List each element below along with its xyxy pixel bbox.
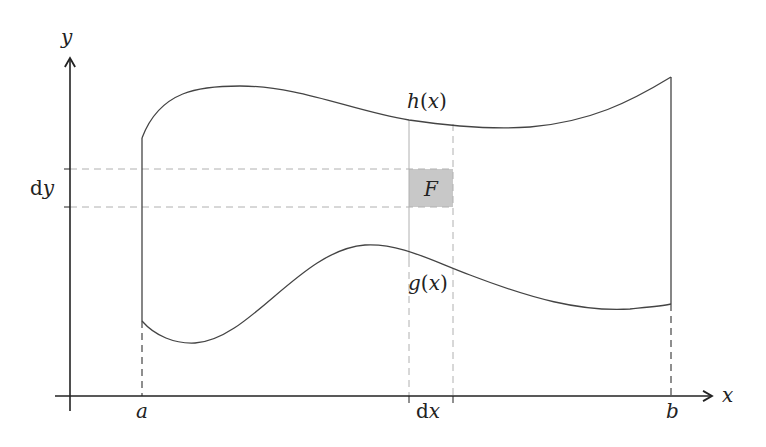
curve-label-g: g(x) (408, 271, 448, 295)
dx-guides (409, 120, 453, 396)
region-sides (142, 77, 671, 321)
tick-label-dy: dy (30, 176, 55, 200)
area-element-label: F (423, 177, 439, 201)
tick-label-b: b (666, 399, 679, 423)
boundary-guides (142, 304, 671, 396)
tick-label-a: a (136, 399, 148, 423)
curve-g (142, 245, 671, 343)
dy-guides (70, 169, 453, 207)
curve-label-h: h(x) (407, 89, 447, 113)
diagram-canvas: y x a b dx dy h(x) g(x) F (0, 0, 766, 447)
y-axis-label: y (60, 25, 73, 49)
x-axis-label: x (722, 383, 733, 407)
tick-label-dx: dx (416, 399, 440, 423)
